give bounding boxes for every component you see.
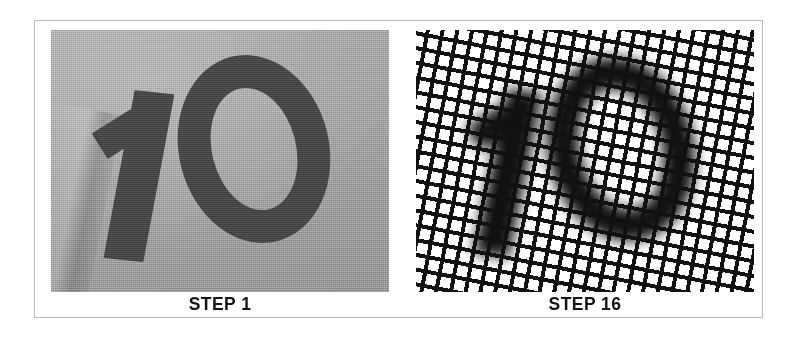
figure-root: STEP 1 STEP 16 bbox=[0, 0, 797, 337]
panel-step-1: STEP 1 bbox=[51, 21, 389, 317]
numerals-10-behind-mesh bbox=[416, 30, 754, 292]
figure-frame: STEP 1 STEP 16 bbox=[34, 20, 763, 318]
numeral-one-glyph bbox=[80, 86, 175, 263]
caption-step-1: STEP 1 bbox=[65, 293, 376, 315]
mesh-numeral-one-stem bbox=[473, 88, 542, 258]
numeral-zero-glyph bbox=[158, 39, 350, 260]
mesh-numeral-zero-glyph bbox=[528, 41, 715, 257]
panel-step-16: STEP 16 bbox=[416, 21, 754, 317]
numeral-one-stem bbox=[104, 90, 175, 262]
caption-step-16: STEP 16 bbox=[430, 293, 741, 315]
printed-numerals-10 bbox=[51, 30, 389, 292]
mesh-numeral-one-glyph bbox=[452, 84, 546, 260]
photo-step-1 bbox=[51, 30, 389, 292]
photo-step-16 bbox=[416, 30, 754, 292]
